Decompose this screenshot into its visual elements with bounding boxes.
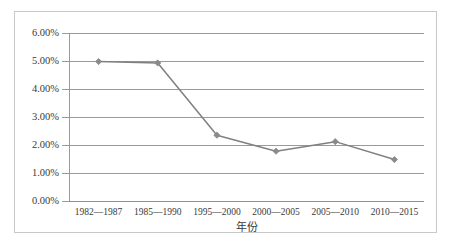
- y-axis-tick-label: 3.00%: [32, 112, 59, 123]
- y-axis-tick-label: 5.00%: [32, 56, 59, 67]
- y-axis-tick: [62, 201, 69, 202]
- data-point-marker: [273, 148, 279, 154]
- chart-figure: 0.00%1.00%2.00%3.00%4.00%5.00%6.00% 1982…: [14, 11, 437, 233]
- y-axis-tick: [62, 173, 69, 174]
- series-line: [99, 62, 395, 160]
- data-point-marker: [332, 139, 338, 145]
- y-axis-tick: [62, 117, 69, 118]
- y-axis-tick: [62, 89, 69, 90]
- x-axis-tick-label: 2000—2005: [252, 208, 300, 218]
- gridline: [69, 201, 424, 202]
- x-axis-tick-label: 2010—2015: [371, 208, 419, 218]
- line-series: [69, 33, 424, 201]
- y-axis-tick-label: 0.00%: [32, 196, 59, 207]
- y-axis-tick-label: 1.00%: [32, 168, 59, 179]
- y-axis-tick-label: 6.00%: [32, 28, 59, 39]
- data-point-marker: [391, 156, 397, 162]
- x-axis-title: 年份: [236, 222, 258, 233]
- x-axis-tick-label: 1985—1990: [134, 208, 182, 218]
- y-axis-tick-label: 4.00%: [32, 84, 59, 95]
- x-axis-tick-label: 2005—2010: [312, 208, 360, 218]
- y-axis-tick: [62, 61, 69, 62]
- x-axis-tick-label: 1982—1987: [75, 208, 123, 218]
- y-axis-tick: [62, 145, 69, 146]
- y-axis-tick: [62, 33, 69, 34]
- data-point-marker: [95, 58, 101, 64]
- y-axis-tick-label: 2.00%: [32, 140, 59, 151]
- x-axis-tick-label: 1995—2000: [193, 208, 241, 218]
- plot-area: 0.00%1.00%2.00%3.00%4.00%5.00%6.00% 1982…: [69, 33, 424, 201]
